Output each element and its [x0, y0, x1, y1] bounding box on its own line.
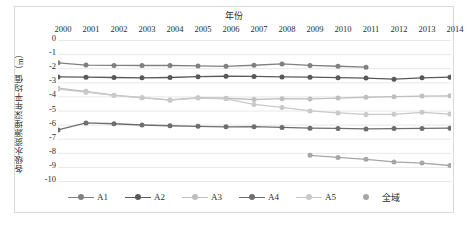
- y-axis-tick-labels: 0-1-2-3-4-5-6-7-8-9-10: [30, 38, 56, 184]
- x-tick-label: 2010: [335, 24, 352, 35]
- legend-marker-icon: [353, 193, 379, 202]
- data-point: [420, 161, 425, 166]
- y-tick-label: -3: [49, 76, 56, 85]
- data-point: [336, 96, 341, 101]
- y-tick-label: -6: [49, 118, 56, 127]
- data-point: [224, 64, 229, 69]
- data-point: [224, 124, 229, 129]
- legend-item-全域[interactable]: 全域: [353, 191, 400, 204]
- data-point: [280, 74, 285, 79]
- plot-area: [58, 40, 451, 182]
- data-point: [252, 63, 257, 68]
- legend-item-A5[interactable]: A5: [296, 192, 336, 202]
- data-point: [84, 63, 89, 68]
- y-tick-label: -5: [49, 104, 56, 113]
- data-point: [392, 77, 397, 82]
- legend-label: 全域: [381, 191, 400, 204]
- data-point: [448, 112, 452, 117]
- legend-marker-icon: [182, 193, 208, 202]
- y-tick-label: -4: [49, 90, 56, 99]
- x-tick-label: 2012: [391, 24, 408, 35]
- chart-legend: A1A2A3A4A5全域: [14, 186, 454, 208]
- x-axis-tick-labels: 2000200120022003200420052006200720082009…: [63, 24, 448, 36]
- legend-label: A5: [324, 192, 336, 202]
- data-point: [364, 157, 369, 162]
- legend-label: A2: [153, 192, 165, 202]
- y-tick-label: -1: [49, 48, 56, 57]
- data-point: [168, 63, 173, 68]
- data-point: [168, 75, 173, 80]
- series-全域: [308, 153, 452, 168]
- data-point: [364, 76, 369, 81]
- data-point: [364, 126, 369, 131]
- x-tick-label: 2000: [55, 24, 72, 35]
- data-point: [308, 108, 313, 113]
- data-point: [140, 123, 145, 128]
- x-tick-label: 2006: [223, 24, 240, 35]
- data-point: [420, 75, 425, 80]
- legend-label: A3: [210, 192, 222, 202]
- x-tick-label: 2002: [111, 24, 128, 35]
- series-line: [58, 63, 366, 67]
- y-tick-label: 0: [52, 34, 56, 43]
- data-point: [224, 74, 229, 79]
- x-tick-label: 2005: [195, 24, 212, 35]
- x-tick-label: 2007: [251, 24, 268, 35]
- data-point: [392, 94, 397, 99]
- data-point: [392, 126, 397, 131]
- x-tick-label: 2013: [419, 24, 436, 35]
- data-point: [252, 97, 257, 102]
- y-tick-label: -8: [49, 146, 56, 155]
- legend-item-A2[interactable]: A2: [125, 192, 165, 202]
- data-point: [448, 126, 452, 131]
- series-A3: [58, 86, 451, 103]
- data-point: [252, 102, 257, 107]
- data-point: [140, 75, 145, 80]
- y-tick-label: -9: [49, 160, 56, 169]
- plot-svg: [58, 40, 451, 182]
- data-point: [140, 63, 145, 68]
- data-point: [280, 105, 285, 110]
- y-tick-label: -2: [49, 62, 56, 71]
- y-tick-label: -7: [49, 132, 56, 141]
- chart-container: 年份 2000200120022003200420052006200720082…: [0, 0, 468, 231]
- legend-item-A3[interactable]: A3: [182, 192, 222, 202]
- data-point: [196, 96, 201, 101]
- data-point: [112, 93, 117, 98]
- data-point: [392, 112, 397, 117]
- series-A2: [58, 74, 451, 82]
- data-point: [58, 127, 61, 132]
- data-point: [168, 98, 173, 103]
- data-point: [280, 61, 285, 66]
- data-point: [140, 95, 145, 100]
- x-tick-label: 2014: [447, 24, 464, 35]
- x-tick-label: 2003: [139, 24, 156, 35]
- data-point: [112, 75, 117, 80]
- data-point: [336, 126, 341, 131]
- data-point: [84, 90, 89, 95]
- data-point: [336, 64, 341, 69]
- legend-marker-icon: [125, 193, 151, 202]
- data-point: [280, 125, 285, 130]
- data-point: [252, 74, 257, 79]
- data-point: [224, 96, 229, 101]
- x-tick-label: 2011: [363, 24, 380, 35]
- series-line: [310, 155, 450, 165]
- data-point: [280, 96, 285, 101]
- legend-item-A4[interactable]: A4: [239, 192, 279, 202]
- data-point: [84, 120, 89, 125]
- legend-item-A1[interactable]: A1: [68, 192, 108, 202]
- data-point: [58, 60, 61, 65]
- y-axis-title: 各级水资源埋深年平均值（m）: [13, 38, 27, 184]
- data-point: [336, 155, 341, 160]
- data-point: [112, 63, 117, 68]
- data-point: [308, 96, 313, 101]
- data-point: [308, 75, 313, 80]
- x-axis-title: 年份: [0, 11, 468, 21]
- legend-marker-icon: [296, 193, 322, 202]
- data-point: [308, 126, 313, 131]
- x-tick-label: 2004: [167, 24, 184, 35]
- x-tick-label: 2009: [307, 24, 324, 35]
- legend-marker-icon: [68, 193, 94, 202]
- data-point: [196, 124, 201, 129]
